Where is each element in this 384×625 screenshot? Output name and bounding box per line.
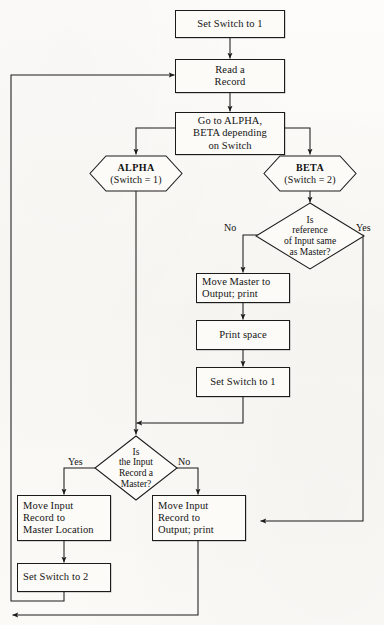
decision-label: Is the Input Record a Master?: [94, 435, 178, 501]
node-beta-hexagon[interactable]: BETA (Switch = 2): [263, 155, 357, 192]
edge-setswitch1-to-spine: [137, 397, 243, 423]
node-alpha-hexagon[interactable]: ALPHA (Switch = 1): [89, 155, 183, 192]
node-label-line-2: Record to: [23, 512, 65, 524]
decision-line-1: Is: [119, 447, 153, 458]
node-label-line-3: Master Location: [23, 524, 94, 536]
node-label-line-1: Go to ALPHA,: [198, 115, 263, 127]
decision-label: Is reference of Input same as Master?: [255, 202, 365, 270]
node-read-a-record[interactable]: Read a Record: [175, 59, 285, 93]
node-set-switch-to-1-top[interactable]: Set Switch to 1: [175, 10, 285, 38]
node-label-line-2: BETA depending: [193, 127, 267, 139]
decision-line-1: Is: [284, 215, 336, 226]
edge-master-yes: [64, 468, 96, 494]
edge-goto-to-beta: [285, 128, 310, 154]
node-set-switch-to-2[interactable]: Set Switch to 2: [17, 563, 111, 592]
decision-line-2: reference: [284, 225, 336, 236]
node-label-line-1: Move Input: [23, 500, 73, 512]
alpha-condition: (Switch = 1): [110, 174, 161, 186]
node-label-line-1: Read a: [215, 64, 244, 76]
node-label-line-2: Output; print: [202, 288, 258, 300]
node-label-line-3: on Switch: [208, 140, 251, 152]
decision-line-4: Master?: [119, 479, 153, 490]
node-label: Print space: [219, 329, 266, 341]
edge-master-no: [176, 468, 198, 494]
hexagon-label: ALPHA (Switch = 1): [89, 155, 183, 192]
node-move-master-to-output[interactable]: Move Master to Output; print: [196, 273, 290, 303]
beta-name: BETA: [296, 162, 324, 174]
node-label-line-1: Move Input: [158, 500, 208, 512]
node-label: Set Switch to 2: [23, 571, 88, 583]
decision-line-3: Record a: [119, 468, 153, 479]
flowchart-page: Set Switch to 1 Read a Record Go to ALPH…: [0, 0, 384, 625]
edge-label-reference-yes: Yes: [356, 222, 371, 233]
alpha-name: ALPHA: [118, 162, 155, 174]
node-decision-input-record-master[interactable]: Is the Input Record a Master?: [94, 435, 178, 501]
node-print-space[interactable]: Print space: [196, 320, 290, 350]
node-label-line-3: Output; print: [158, 524, 214, 536]
decision-line-3: of Input same: [284, 236, 336, 247]
node-move-input-record-to-output[interactable]: Move Input Record to Output; print: [152, 495, 246, 541]
node-label-line-2: Record: [215, 76, 246, 88]
decision-line-4: as Master?: [284, 247, 336, 258]
beta-condition: (Switch = 2): [284, 174, 335, 186]
edge-label-reference-no: No: [224, 222, 236, 233]
hexagon-label: BETA (Switch = 2): [263, 155, 357, 192]
node-decision-reference-same-as-master[interactable]: Is reference of Input same as Master?: [255, 202, 365, 270]
decision-line-2: the Input: [119, 457, 153, 468]
node-label: Set Switch to 1: [210, 376, 275, 388]
edge-label-master-yes: Yes: [68, 456, 83, 467]
edge-goto-to-alpha: [136, 128, 175, 154]
node-go-to-alpha-beta[interactable]: Go to ALPHA, BETA depending on Switch: [175, 112, 285, 155]
edge-label-master-no: No: [178, 456, 190, 467]
node-label-line-1: Move Master to: [202, 276, 270, 288]
node-label: Set Switch to 1: [197, 18, 262, 30]
node-label-line-2: Record to: [158, 512, 200, 524]
node-set-switch-to-1-mid[interactable]: Set Switch to 1: [196, 367, 290, 397]
node-move-input-record-to-master-location[interactable]: Move Input Record to Master Location: [17, 495, 111, 541]
